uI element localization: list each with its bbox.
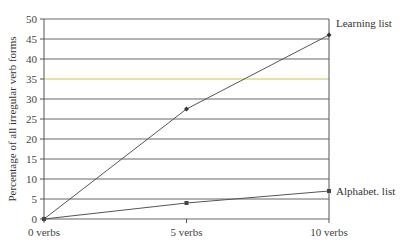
- y-tick-label: 45: [26, 33, 38, 45]
- y-tick-label: 30: [26, 93, 38, 105]
- y-tick-label: 20: [26, 133, 38, 145]
- y-tick-label: 40: [26, 53, 38, 65]
- series-label: Learning list: [336, 17, 392, 29]
- y-tick-label: 25: [26, 113, 38, 125]
- x-axis-ticks: 0 verbs5 verbs10 verbs: [28, 219, 348, 238]
- data-point-square: [42, 217, 46, 221]
- y-tick-label: 15: [26, 153, 38, 165]
- y-tick-label: 0: [32, 213, 38, 225]
- y-tick-label: 50: [26, 13, 38, 25]
- x-tick-label: 0 verbs: [28, 226, 60, 238]
- y-axis-ticks: 05101520253035404550: [26, 13, 44, 225]
- y-tick-label: 35: [26, 73, 38, 85]
- data-point-diamond: [327, 33, 332, 38]
- x-tick-label: 5 verbs: [170, 226, 202, 238]
- x-tick-label: 10 verbs: [310, 226, 348, 238]
- series-label: Alphabet. list: [336, 185, 395, 197]
- y-tick-label: 5: [32, 193, 38, 205]
- gridlines: [44, 19, 329, 219]
- y-tick-label: 10: [26, 173, 38, 185]
- y-axis-label: Percentage of all irregular verb forms: [6, 36, 18, 201]
- line-chart: 05101520253035404550 0 verbs5 verbs10 ve…: [0, 0, 410, 248]
- data-point-square: [327, 189, 331, 193]
- data-point-square: [185, 201, 189, 205]
- series-line: [44, 35, 329, 219]
